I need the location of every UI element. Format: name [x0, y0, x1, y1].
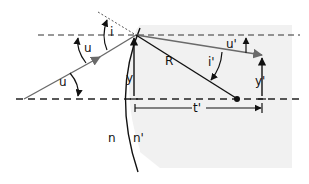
label-y-prime: y' [255, 74, 265, 88]
label-R: R [165, 54, 173, 68]
label-y: y [126, 71, 133, 85]
label-u-lower: u [59, 75, 67, 89]
label-n-prime: n' [133, 131, 144, 145]
label-t-prime: t' [193, 101, 201, 115]
label-u-prime: u' [226, 37, 237, 51]
label-i-prime: i' [208, 55, 215, 69]
center-of-curvature [234, 96, 240, 102]
angle-u-lower-arc [70, 73, 78, 96]
angle-i-arc [104, 20, 107, 50]
label-u: u [84, 41, 92, 55]
label-n: n [108, 131, 116, 145]
refraction-diagram: u u i u' i' R y y' t' n n' [0, 0, 309, 184]
label-i: i [110, 25, 113, 39]
